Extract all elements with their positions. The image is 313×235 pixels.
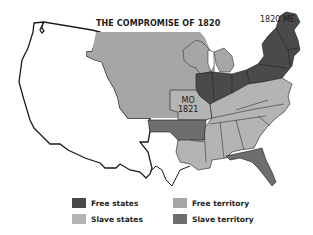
legend-label: Free states bbox=[91, 199, 138, 208]
missouri-label-year: 1821 bbox=[178, 105, 198, 114]
legend-label: Slave territory bbox=[192, 215, 254, 224]
slave-territory-swatch bbox=[173, 214, 187, 224]
legend-label: Free territory bbox=[192, 199, 249, 208]
free-states-swatch bbox=[72, 198, 86, 208]
legend-free-territory: Free territory bbox=[173, 198, 249, 208]
gulf-coastline bbox=[150, 166, 190, 186]
legend-slave-states: Slave states bbox=[72, 214, 143, 224]
missouri-label-name: MO bbox=[178, 96, 198, 105]
slave-territory-florida bbox=[226, 148, 276, 186]
slave-states-swatch bbox=[72, 214, 86, 224]
legend-label: Slave states bbox=[91, 215, 143, 224]
legend-free-states: Free states bbox=[72, 198, 138, 208]
us-map-svg bbox=[0, 0, 313, 235]
map-title: THE COMPROMISE OF 1820 bbox=[96, 19, 220, 28]
legend-slave-territory: Slave territory bbox=[173, 214, 254, 224]
maine-label: 1820 ME bbox=[260, 15, 295, 24]
missouri-label: MO 1821 bbox=[178, 96, 198, 114]
free-territory-michigan-lower bbox=[214, 48, 234, 72]
compromise-map: THE COMPROMISE OF 1820 1820 ME MO 1821 F… bbox=[0, 0, 313, 235]
slave-territory-arkansas bbox=[148, 120, 206, 140]
free-territory-swatch bbox=[173, 198, 187, 208]
